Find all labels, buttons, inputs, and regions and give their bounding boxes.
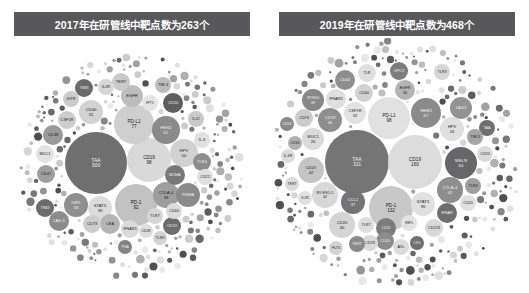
bubble-tlr9[interactable]: [434, 64, 450, 80]
bubble-inf1[interactable]: [401, 215, 417, 231]
bubble-tert[interactable]: [349, 236, 365, 252]
bubble-tlr9[interactable]: [153, 231, 167, 245]
bubble-cd38[interactable]: [43, 125, 63, 145]
bubble-il2r[interactable]: [298, 191, 312, 205]
bubble-il-6[interactable]: [194, 132, 210, 148]
bubble-cd19[interactable]: [127, 138, 171, 182]
bubble-cd30[interactable]: [288, 136, 302, 150]
bubble-filler: [185, 234, 193, 242]
bubble-ift1[interactable]: [142, 95, 158, 111]
bubble-cd20[interactable]: [329, 212, 355, 238]
bubble-filler: [204, 208, 211, 215]
bubble-tim3[interactable]: [75, 79, 93, 97]
bubble-stat3[interactable]: [411, 192, 435, 216]
bubble-filler: [504, 145, 507, 148]
bubble-cd47[interactable]: [37, 165, 55, 183]
bubble-filler: [36, 114, 40, 118]
bubble-taa[interactable]: [325, 130, 389, 194]
bubble-filler: [329, 71, 331, 73]
bubble-taa[interactable]: [65, 132, 127, 194]
bubble-il-6r[interactable]: [281, 149, 295, 163]
bubble-her2[interactable]: [411, 98, 441, 128]
bubble-tlr[interactable]: [358, 64, 376, 82]
bubble-cd19[interactable]: [318, 108, 342, 132]
bubble-pd-l1[interactable]: [368, 97, 410, 139]
bubble-ifnar[interactable]: [437, 203, 457, 223]
bubble-tert[interactable]: [285, 177, 299, 191]
bubble-filler: [491, 86, 496, 91]
bubble-tlr4[interactable]: [193, 153, 211, 171]
bubble-tim-3[interactable]: [155, 77, 171, 93]
bubble-cd20[interactable]: [460, 195, 476, 211]
bubble-filler: [203, 81, 207, 85]
bubble-filler: [447, 270, 452, 275]
bubble-ny-eso-1[interactable]: [312, 182, 338, 208]
bubble-tert[interactable]: [112, 73, 130, 91]
bubble-ccl1[interactable]: [341, 190, 365, 214]
bubble-filler: [233, 145, 238, 150]
bubble-cd20[interactable]: [376, 232, 394, 250]
bubble-tlr4[interactable]: [465, 178, 481, 194]
bubble-ifnar1[interactable]: [326, 89, 346, 109]
bubble-filler: [30, 190, 37, 197]
bubble-filler: [481, 103, 490, 112]
bubble-cd20[interactable]: [477, 146, 493, 162]
bubble-cd73[interactable]: [295, 109, 313, 127]
bubble-filler: [460, 140, 466, 146]
bubble-filler: [507, 205, 514, 212]
bubble-csf1r[interactable]: [344, 102, 366, 124]
bubble-cd20[interactable]: [163, 93, 183, 113]
bubble-il2r[interactable]: [98, 79, 114, 95]
bubble-filler: [442, 150, 446, 154]
bubble-tim-3[interactable]: [467, 129, 483, 145]
bubble-filler: [454, 259, 458, 263]
bubble-gitr[interactable]: [63, 91, 79, 107]
bubble-gpc3[interactable]: [390, 62, 408, 80]
bubble-filler: [287, 193, 290, 196]
bubble-flt3[interactable]: [329, 241, 343, 255]
bubble-ctla-4[interactable]: [437, 177, 463, 203]
bubble-cd44[interactable]: [335, 70, 355, 90]
bubble-cd44[interactable]: [166, 203, 182, 219]
bubble-ifnar1[interactable]: [121, 220, 139, 238]
bubble-cd19[interactable]: [388, 135, 442, 189]
bubble-cd56[interactable]: [280, 117, 294, 131]
bubble-cd47[interactable]: [298, 157, 324, 183]
bubble-sting[interactable]: [302, 89, 324, 111]
bubble-hpv[interactable]: [440, 117, 464, 141]
bubble-psa[interactable]: [118, 240, 132, 254]
bubble-filler: [190, 79, 193, 82]
bubble-tim3[interactable]: [36, 199, 54, 217]
bubble-egfr[interactable]: [395, 80, 415, 100]
bubble-muc1[interactable]: [302, 128, 324, 150]
bubble-cd73[interactable]: [83, 215, 101, 233]
bubble-filler: [231, 190, 238, 197]
bubble-lag3[interactable]: [450, 97, 472, 119]
bubble-filler: [136, 255, 145, 264]
bubble-cd40[interactable]: [355, 84, 373, 102]
bubble-cea[interactable]: [100, 214, 120, 234]
bubble-axl[interactable]: [393, 239, 409, 255]
bubble-tlr7[interactable]: [147, 208, 163, 224]
bubble-cd123[interactable]: [425, 219, 443, 237]
bubble-her2[interactable]: [152, 116, 180, 144]
bubble-tlr7[interactable]: [358, 217, 374, 233]
bubble-bcma[interactable]: [165, 165, 185, 185]
bubble-csf1r[interactable]: [58, 111, 76, 129]
bubble-filler: [46, 103, 48, 105]
bubble-filler: [477, 196, 484, 203]
bubble-lag-3[interactable]: [49, 211, 69, 231]
bubble-il12[interactable]: [188, 111, 204, 127]
bubble-cd5[interactable]: [410, 236, 424, 250]
bubble-filler: [411, 190, 415, 194]
bubble-cd28[interactable]: [139, 224, 153, 238]
bubble-cd40[interactable]: [79, 100, 103, 124]
bubble-filler: [63, 145, 66, 148]
bubble-igf1[interactable]: [64, 193, 88, 217]
bubble-cd19[interactable]: [163, 217, 181, 235]
bubble-filler: [484, 201, 486, 203]
bubble-muc1[interactable]: [36, 145, 54, 163]
bubble-cd22[interactable]: [197, 169, 213, 185]
bubble-msln[interactable]: [445, 147, 477, 179]
bubble-psma[interactable]: [176, 183, 200, 207]
